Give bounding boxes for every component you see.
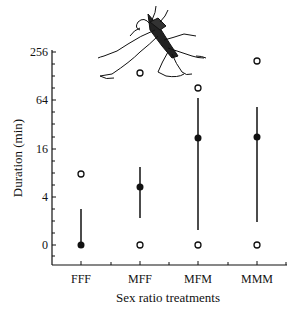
y-axis: 256 64 16 4 0 [30,45,56,265]
x-tick-mmm: MMM [241,272,273,286]
chart-canvas: 256 64 16 4 0 Duration (min) FFF MFF MFM… [0,0,297,311]
outlier-point [254,58,260,64]
outlier-point [137,242,143,248]
x-axis-title: Sex ratio treatments [116,290,220,305]
outlier-point [195,242,201,248]
y-tick-4: 4 [42,190,48,204]
median-point [195,135,202,142]
y-axis-title: Duration (min) [10,119,25,197]
outlier-point [254,242,260,248]
median-point [254,134,261,141]
x-tick-fff: FFF [71,272,91,286]
y-tick-0: 0 [42,238,48,252]
median-point [137,184,144,191]
group-mfm [195,85,202,248]
x-axis: FFF MFF MFM MMM [52,261,287,286]
group-fff [78,171,85,249]
outlier-point [195,85,201,91]
outlier-point [137,70,143,76]
y-tick-64: 64 [36,93,48,107]
y-tick-16: 16 [36,142,48,156]
group-mff [137,70,144,248]
y-tick-256: 256 [30,45,48,59]
median-point [78,242,85,249]
group-mmm [254,58,261,248]
x-tick-mff: MFF [128,272,152,286]
x-tick-mfm: MFM [184,272,212,286]
outlier-point [78,171,84,177]
insect-illustration [98,6,206,79]
